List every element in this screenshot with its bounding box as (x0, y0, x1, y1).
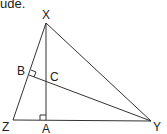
right-angle-marker-a (40, 115, 46, 120)
side-yz (13, 120, 151, 121)
label-a: A (42, 122, 50, 134)
label-z: Z (2, 120, 9, 134)
label-x: X (42, 8, 50, 22)
altitude-yb (29, 75, 151, 121)
label-y: Y (153, 120, 161, 134)
label-c: C (50, 70, 59, 84)
triangle-diagram: X Y Z A B C (0, 0, 167, 134)
label-b: B (17, 64, 25, 78)
side-xy (46, 23, 151, 121)
